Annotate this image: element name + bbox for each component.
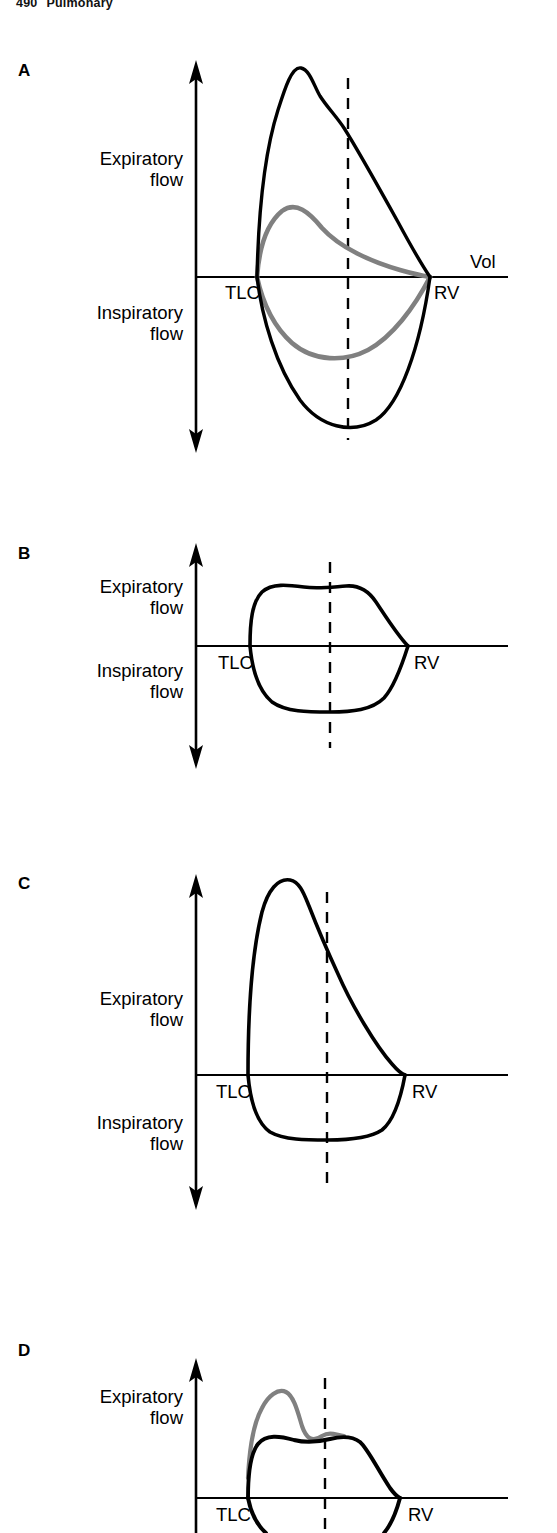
panel-b: B Expiratory flow Inspiratory flow TLC R… xyxy=(0,500,557,830)
panel-d: D Expiratory flow TLC RV xyxy=(0,1270,557,1533)
panel-c-flow-axis xyxy=(189,874,203,1210)
panel-b-plot: TLC RV xyxy=(0,500,557,830)
panel-c-tlc-label: TLC xyxy=(216,1081,251,1102)
panel-d-inspiratory-curve-right xyxy=(384,1498,400,1533)
figure-root: 490Pulmonary A Expiratory flow Inspirato… xyxy=(0,0,557,1533)
panel-a-tlc-label: TLC xyxy=(225,282,260,303)
panel-b-flow-axis xyxy=(189,543,203,769)
panel-a: A Expiratory flow Inspiratory flow TLC R… xyxy=(0,0,557,500)
panel-a-rv-label: RV xyxy=(434,282,460,303)
panel-a-vol-label: Vol xyxy=(470,251,496,272)
panel-d-tlc-label: TLC xyxy=(216,1504,251,1525)
panel-c-plot: TLC RV xyxy=(0,830,557,1270)
panel-d-flow-axis xyxy=(189,1358,203,1533)
panel-a-normal-inspiratory-curve xyxy=(257,277,430,358)
panel-a-flow-axis xyxy=(189,60,203,453)
panel-a-normal-expiratory-curve xyxy=(257,207,430,277)
panel-c-rv-label: RV xyxy=(412,1081,438,1102)
panel-c-inspiratory-curve xyxy=(248,1075,405,1140)
panel-a-plot: TLC RV Vol xyxy=(0,0,557,500)
panel-d-rv-label: RV xyxy=(408,1504,434,1525)
panel-c: C Expiratory flow Inspiratory flow TLC R… xyxy=(0,830,557,1270)
panel-d-plot: TLC RV xyxy=(0,1270,557,1533)
panel-b-expiratory-curve xyxy=(250,585,408,646)
panel-d-normal-expiratory-curve xyxy=(248,1391,344,1478)
panel-b-rv-label: RV xyxy=(414,652,440,673)
panel-a-inspiratory-curve xyxy=(257,277,430,427)
panel-b-tlc-label: TLC xyxy=(218,652,253,673)
